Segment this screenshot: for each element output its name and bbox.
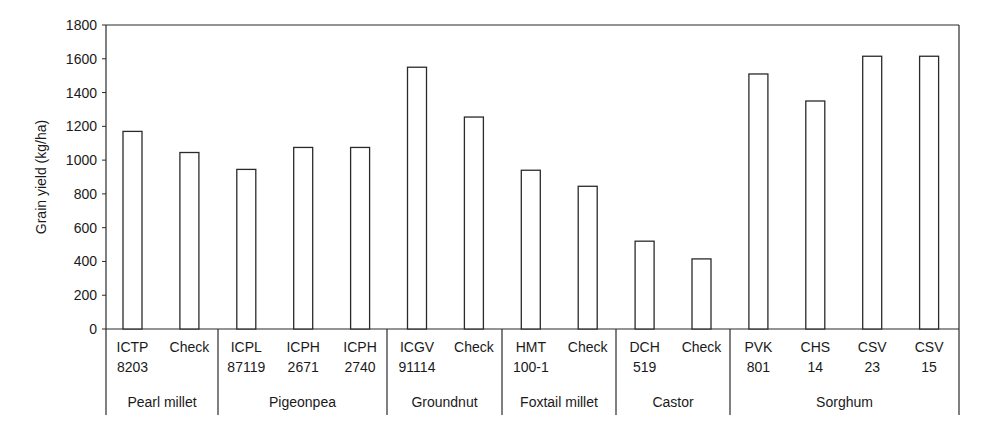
category-label: CSV (915, 339, 944, 355)
y-tick-label: 1600 (66, 51, 97, 67)
y-tick-label: 800 (74, 186, 98, 202)
bar (806, 101, 825, 329)
y-axis-title: Grain yield (kg/ha) (33, 120, 49, 234)
y-tick-label: 400 (74, 253, 98, 269)
bar (578, 186, 597, 329)
bar (464, 117, 483, 329)
category-label: Check (170, 339, 211, 355)
bar (351, 147, 370, 329)
bar-chart: 020040060080010001200140016001800 Grain … (0, 0, 987, 446)
category-label: ICTP (117, 339, 149, 355)
category-label: Check (568, 339, 609, 355)
category-label: ICGV (400, 339, 435, 355)
group-label: Groundnut (411, 394, 477, 410)
y-tick-label: 1800 (66, 17, 97, 33)
y-tick-label: 1200 (66, 118, 97, 134)
bar (920, 56, 939, 329)
category-label: HMT (516, 339, 547, 355)
category-label: Check (454, 339, 495, 355)
category-label: CHS (801, 339, 831, 355)
bar (692, 259, 711, 329)
y-tick-label: 200 (74, 287, 98, 303)
group-label: Foxtail millet (520, 394, 598, 410)
category-sublabel: 8203 (117, 359, 148, 375)
category-sublabel: 801 (747, 359, 771, 375)
category-label: ICPH (286, 339, 319, 355)
category-sublabel: 2671 (288, 359, 319, 375)
bar (749, 74, 768, 329)
y-axis: 020040060080010001200140016001800 (66, 17, 106, 337)
category-label: ICPH (343, 339, 376, 355)
bar (123, 131, 142, 329)
bars (123, 56, 939, 329)
bar (408, 67, 427, 329)
group-label: Castor (652, 394, 694, 410)
bar (635, 241, 654, 329)
category-label: ICPL (231, 339, 262, 355)
bar (237, 169, 256, 329)
group-label: Pearl millet (127, 394, 196, 410)
category-sublabel: 519 (633, 359, 657, 375)
category-sublabel: 91114 (399, 359, 436, 375)
bar (294, 147, 313, 329)
category-label: CSV (858, 339, 887, 355)
group-label: Pigeonpea (269, 394, 336, 410)
category-sublabel: 2740 (345, 359, 376, 375)
bar (863, 56, 882, 329)
category-sublabel: 23 (864, 359, 880, 375)
category-sublabel: 15 (921, 359, 937, 375)
bar (180, 153, 199, 329)
y-tick-label: 1000 (66, 152, 97, 168)
category-sublabel: 14 (808, 359, 824, 375)
y-tick-label: 1400 (66, 85, 97, 101)
category-label: PVK (744, 339, 773, 355)
category-labels: ICTP8203CheckICPL87119ICPH2671ICPH2740IC… (117, 339, 945, 375)
y-tick-label: 600 (74, 220, 98, 236)
group-label: Sorghum (816, 394, 873, 410)
category-sublabel: 87119 (227, 359, 265, 375)
category-label: DCH (629, 339, 659, 355)
bar (521, 170, 540, 329)
category-label: Check (682, 339, 723, 355)
category-sublabel: 100-1 (513, 359, 549, 375)
y-tick-label: 0 (89, 321, 97, 337)
